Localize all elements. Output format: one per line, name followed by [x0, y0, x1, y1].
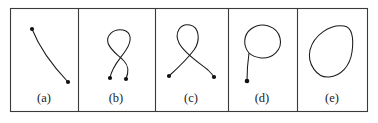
endpoint-dot-c-end	[212, 75, 216, 79]
figure-container: (a) (b) (c) (d) (e)	[0, 0, 378, 123]
panel-caption-a: (a)	[37, 91, 51, 105]
endpoint-dot-b-start	[108, 76, 112, 80]
panel-caption-d: (d)	[255, 91, 270, 105]
panel-caption-c: (c)	[184, 91, 198, 105]
endpoint-dot-d	[245, 79, 250, 84]
panel-caption-b: (b)	[109, 91, 124, 105]
panel-caption-e: (e)	[325, 91, 339, 105]
endpoint-dot-b-end	[124, 77, 128, 81]
endpoint-dot-a-end	[66, 80, 70, 84]
curves-figure: (a) (b) (c) (d) (e)	[0, 0, 378, 123]
endpoint-dot-a-start	[30, 27, 34, 31]
endpoint-dot-c-start	[167, 74, 171, 78]
